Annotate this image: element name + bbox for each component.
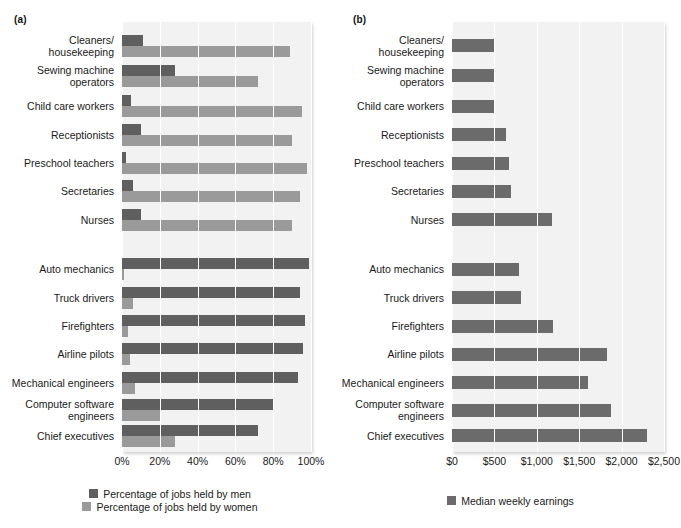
legend-label: Percentage of jobs held by men xyxy=(103,488,251,500)
legend-swatch-icon xyxy=(447,496,456,505)
bar xyxy=(452,100,494,113)
legend-label: Median weekly earnings xyxy=(461,495,574,507)
gridline xyxy=(311,22,312,452)
bar-row xyxy=(122,258,311,280)
bar xyxy=(452,128,506,141)
category-label: Truck drivers xyxy=(384,292,444,304)
x-axis-tick-label: 40% xyxy=(187,455,208,467)
bar xyxy=(452,348,607,361)
bar-row xyxy=(122,35,311,57)
bar xyxy=(122,152,126,163)
bar xyxy=(122,425,258,436)
bar-row xyxy=(452,404,664,417)
gridline xyxy=(160,22,161,452)
category-label: Nurses xyxy=(411,214,444,226)
bar xyxy=(122,436,175,447)
gridline xyxy=(273,22,274,452)
bar xyxy=(122,298,133,309)
category-label: Child care workers xyxy=(357,100,444,112)
bar xyxy=(122,372,298,383)
bar xyxy=(122,383,135,394)
gridline xyxy=(198,22,199,452)
gridline xyxy=(494,22,495,452)
category-label: Cleaners/ housekeeping xyxy=(379,34,444,58)
category-label: Secretaries xyxy=(391,185,444,197)
bar xyxy=(452,263,519,276)
x-axis-tick-label: $1,000 xyxy=(521,455,553,467)
legend-item: Percentage of jobs held by men xyxy=(0,487,340,500)
bar xyxy=(122,65,175,76)
gridline xyxy=(664,22,665,452)
bar-row xyxy=(452,263,664,276)
category-label: Sewing machine operators xyxy=(37,64,114,88)
legend-label: Percentage of jobs held by women xyxy=(96,501,257,513)
panel-b: (b) Cleaners/ housekeepingSewing machine… xyxy=(340,0,681,528)
category-label: Firefighters xyxy=(391,320,444,332)
category-label: Mechanical engineers xyxy=(342,377,444,389)
gridline xyxy=(579,22,580,452)
category-label: Preschool teachers xyxy=(354,157,444,169)
category-label: Preschool teachers xyxy=(24,157,114,169)
category-label: Truck drivers xyxy=(54,292,114,304)
panel-b-plot-area xyxy=(452,22,664,452)
category-label: Computer software engineers xyxy=(25,398,114,422)
panel-a-x-axis: 0%20%40%60%80%100% xyxy=(122,455,311,471)
category-label: Airline pilots xyxy=(387,348,444,360)
bar xyxy=(122,180,133,191)
bar xyxy=(122,209,141,220)
bar-row xyxy=(122,124,311,146)
legend-item: Percentage of jobs held by women xyxy=(0,500,340,513)
gridline xyxy=(537,22,538,452)
x-axis-tick-label: $0 xyxy=(446,455,458,467)
bar xyxy=(122,76,258,87)
bar xyxy=(452,376,588,389)
category-label: Receptionists xyxy=(51,129,114,141)
x-axis-tick-label: $500 xyxy=(483,455,506,467)
bar-row xyxy=(122,65,311,87)
bar-row xyxy=(452,291,664,304)
panel-b-x-axis: $0$500$1,000$1,500$2,000$2,500 xyxy=(452,455,664,471)
bar-row xyxy=(122,372,311,394)
category-label: Secretaries xyxy=(61,185,114,197)
bar xyxy=(452,39,494,52)
bar xyxy=(452,404,611,417)
x-axis-tick-label: $1,500 xyxy=(563,455,595,467)
bar xyxy=(452,185,511,198)
category-label: Mechanical engineers xyxy=(12,377,114,389)
bar xyxy=(122,163,307,174)
bar-row xyxy=(122,287,311,309)
bar xyxy=(122,315,305,326)
category-label: Child care workers xyxy=(27,100,114,112)
panel-b-legend: Median weekly earnings xyxy=(340,494,681,507)
category-label: Sewing machine operators xyxy=(367,64,444,88)
gridline xyxy=(235,22,236,452)
bar-row xyxy=(452,429,664,442)
category-label: Cleaners/ housekeeping xyxy=(49,34,114,58)
bar xyxy=(452,429,647,442)
bar-row xyxy=(452,348,664,361)
category-label: Chief executives xyxy=(367,430,444,442)
bar xyxy=(122,35,143,46)
panel-a-legend: Percentage of jobs held by menPercentage… xyxy=(0,487,340,513)
bar-row xyxy=(122,399,311,421)
bar-row xyxy=(452,376,664,389)
category-label: Computer software engineers xyxy=(355,398,444,422)
x-axis-tick-label: $2,500 xyxy=(648,455,680,467)
legend-item: Median weekly earnings xyxy=(340,494,681,507)
bar xyxy=(452,291,521,304)
bar xyxy=(122,258,309,269)
bar-row xyxy=(122,315,311,337)
category-label: Auto mechanics xyxy=(369,263,444,275)
bar xyxy=(452,69,494,82)
bar-row xyxy=(122,152,311,174)
bar-row xyxy=(452,213,664,226)
bar xyxy=(122,124,141,135)
bar-row xyxy=(452,320,664,333)
x-axis-tick-label: 60% xyxy=(225,455,246,467)
category-label: Chief executives xyxy=(37,430,114,442)
panel-b-category-labels: Cleaners/ housekeepingSewing machine ope… xyxy=(340,22,448,452)
legend-swatch-icon xyxy=(89,489,98,498)
panel-a-plot-area xyxy=(122,22,311,452)
category-label: Receptionists xyxy=(381,129,444,141)
bar-row xyxy=(452,39,664,52)
